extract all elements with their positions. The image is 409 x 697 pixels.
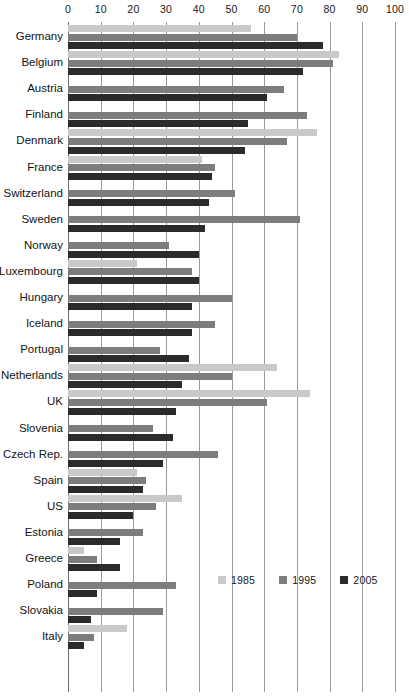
bar-row: Italy xyxy=(0,623,409,649)
x-tick-100: 100 xyxy=(386,3,404,15)
bar-row: Iceland xyxy=(0,310,409,336)
x-tick-0: 0 xyxy=(65,3,71,15)
bar-row: Slovenia xyxy=(0,415,409,441)
legend-swatch-icon-2005 xyxy=(340,576,348,584)
x-tick-60: 60 xyxy=(258,3,270,15)
bar-1985 xyxy=(68,547,84,554)
bar-row: Austria xyxy=(0,75,409,101)
bar-1985 xyxy=(68,129,317,136)
x-axis-tick-labels: 0102030405060708090100 xyxy=(0,0,409,22)
bar-1985 xyxy=(68,390,310,397)
bar-group xyxy=(0,180,409,206)
x-tick-50: 50 xyxy=(225,3,237,15)
x-tick-70: 70 xyxy=(291,3,303,15)
legend-item-1995[interactable]: 1995 xyxy=(279,574,316,586)
bar-row: Estonia xyxy=(0,519,409,545)
bar-1995 xyxy=(68,503,156,510)
bar-1995 xyxy=(68,556,97,563)
bar-rows: GermanyBelgiumAustriaFinlandDenmarkFranc… xyxy=(0,22,409,692)
x-tick-10: 10 xyxy=(95,3,107,15)
bar-1995 xyxy=(68,321,215,328)
bar-row: Norway xyxy=(0,232,409,258)
bar-row: Luxembourg xyxy=(0,258,409,284)
bar-1985 xyxy=(68,51,339,58)
bar-1995 xyxy=(68,582,176,589)
bar-1985 xyxy=(68,156,202,163)
bar-1995 xyxy=(68,529,143,536)
bar-group xyxy=(0,49,409,75)
bar-1995 xyxy=(68,164,215,171)
x-tick-30: 30 xyxy=(160,3,172,15)
legend-item-1985[interactable]: 1985 xyxy=(218,574,255,586)
bar-group xyxy=(0,75,409,101)
plot-area: GermanyBelgiumAustriaFinlandDenmarkFranc… xyxy=(0,22,409,692)
bar-1985 xyxy=(68,260,137,267)
bar-1985 xyxy=(68,625,127,632)
x-tick-90: 90 xyxy=(356,3,368,15)
bar-group xyxy=(0,127,409,153)
bar-1995 xyxy=(68,425,153,432)
bar-group xyxy=(0,258,409,284)
bar-row: France xyxy=(0,154,409,180)
bar-group xyxy=(0,388,409,414)
bar-row: Greece xyxy=(0,545,409,571)
bar-group xyxy=(0,415,409,441)
bar-1995 xyxy=(68,86,284,93)
legend-swatch-icon-1995 xyxy=(279,576,287,584)
bar-1995 xyxy=(68,138,287,145)
bar-1995 xyxy=(68,608,163,615)
bar-group xyxy=(0,101,409,127)
bar-group xyxy=(0,623,409,649)
bar-row: Netherlands xyxy=(0,362,409,388)
bar-1995 xyxy=(68,295,232,302)
bar-row: Switzerland xyxy=(0,180,409,206)
bar-group xyxy=(0,467,409,493)
bar-1985 xyxy=(68,25,251,32)
bar-row: Sweden xyxy=(0,206,409,232)
bar-group xyxy=(0,206,409,232)
bar-1995 xyxy=(68,373,232,380)
bar-1995 xyxy=(68,268,192,275)
legend-swatch-icon-1985 xyxy=(218,576,226,584)
x-tick-40: 40 xyxy=(193,3,205,15)
bar-row: US xyxy=(0,493,409,519)
bar-row: Slovakia xyxy=(0,597,409,623)
bar-row: Belgium xyxy=(0,49,409,75)
legend-label-1985: 1985 xyxy=(231,574,255,586)
legend-label-2005: 2005 xyxy=(353,574,377,586)
bar-1995 xyxy=(68,190,235,197)
bar-1995 xyxy=(68,347,160,354)
x-tick-20: 20 xyxy=(127,3,139,15)
bar-1995 xyxy=(68,34,297,41)
bar-group xyxy=(0,362,409,388)
bar-1995 xyxy=(68,477,146,484)
legend-item-2005[interactable]: 2005 xyxy=(340,574,377,586)
bar-1985 xyxy=(68,364,277,371)
bar-1985 xyxy=(68,495,182,502)
bar-row: Czech Rep. xyxy=(0,441,409,467)
bar-group xyxy=(0,597,409,623)
bar-1995 xyxy=(68,216,300,223)
bar-row: Finland xyxy=(0,101,409,127)
bar-1995 xyxy=(68,112,307,119)
legend-label-1995: 1995 xyxy=(292,574,316,586)
bar-1995 xyxy=(68,242,169,249)
bar-group xyxy=(0,154,409,180)
bar-1985 xyxy=(68,469,137,476)
bar-2005 xyxy=(68,642,84,649)
bar-1995 xyxy=(68,451,218,458)
bar-row: UK xyxy=(0,388,409,414)
bar-row: Spain xyxy=(0,467,409,493)
bar-1995 xyxy=(68,60,333,67)
x-tick-80: 80 xyxy=(324,3,336,15)
bar-group xyxy=(0,232,409,258)
bar-chart: 0102030405060708090100 GermanyBelgiumAus… xyxy=(0,0,409,697)
bar-1995 xyxy=(68,399,267,406)
bar-group xyxy=(0,519,409,545)
bar-group xyxy=(0,336,409,362)
bar-group xyxy=(0,493,409,519)
bar-row: Denmark xyxy=(0,127,409,153)
bar-group xyxy=(0,441,409,467)
bar-1995 xyxy=(68,634,94,641)
bar-group xyxy=(0,284,409,310)
